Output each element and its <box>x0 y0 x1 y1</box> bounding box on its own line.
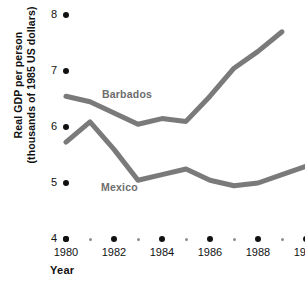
y-tick-dot <box>63 68 69 74</box>
y-tick-label: 8 <box>41 8 57 20</box>
x-tick-dot <box>159 236 165 242</box>
y-tick-dot <box>63 12 69 18</box>
x-tick-dot <box>207 236 213 242</box>
y-tick-label: 4 <box>41 232 57 244</box>
x-minor-tick-dot <box>89 238 92 241</box>
y-tick-label: 7 <box>41 64 57 76</box>
y-tick-label: 5 <box>41 176 57 188</box>
x-tick-dot <box>63 236 69 242</box>
x-tick-dot <box>255 236 261 242</box>
x-tick-dot <box>111 236 117 242</box>
x-tick-label: 1988 <box>238 246 278 258</box>
x-axis-label: Year <box>50 264 74 276</box>
y-tick-dot <box>63 180 69 186</box>
series-line-mexico <box>66 122 305 186</box>
x-tick-label: 1986 <box>190 246 230 258</box>
x-minor-tick-dot <box>281 238 284 241</box>
y-tick-dot <box>63 124 69 130</box>
x-tick-label: 1982 <box>94 246 134 258</box>
x-tick-label: 1980 <box>46 246 86 258</box>
series-label-mexico: Mexico <box>101 181 138 193</box>
chart-figure: Real GDP per person (thousands of 1985 U… <box>0 0 305 293</box>
x-tick-label: 1984 <box>142 246 182 258</box>
x-minor-tick-dot <box>185 238 188 241</box>
x-minor-tick-dot <box>137 238 140 241</box>
series-label-barbados: Barbados <box>102 88 152 100</box>
x-minor-tick-dot <box>233 238 236 241</box>
y-tick-label: 6 <box>41 120 57 132</box>
series-line-barbados <box>66 32 282 124</box>
x-tick-label: 1990 <box>286 246 305 258</box>
x-tick-dot <box>303 236 305 242</box>
